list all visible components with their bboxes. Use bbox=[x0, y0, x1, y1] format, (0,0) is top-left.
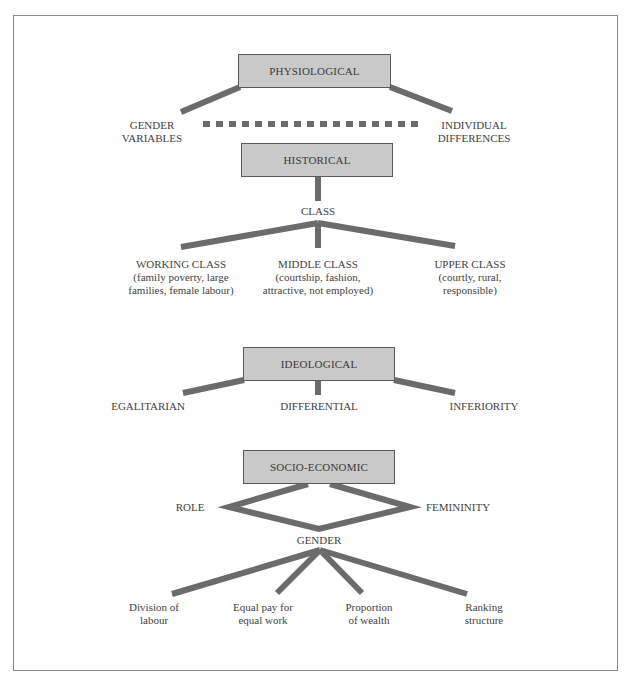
historical-box: HISTORICAL bbox=[241, 143, 393, 177]
connector-lines bbox=[0, 0, 625, 680]
connector-ideo-right bbox=[394, 380, 455, 393]
outcome-ranking-structure: Ranking structure bbox=[465, 601, 503, 627]
diamond-connector bbox=[229, 484, 410, 529]
physiological-box: PHYSIOLOGICAL bbox=[238, 54, 391, 88]
gender-variables-label: GENDER VARIABLES bbox=[122, 119, 182, 145]
ideological-title: IDEOLOGICAL bbox=[281, 358, 358, 370]
connector-physio-right bbox=[390, 87, 452, 111]
working-class-label: WORKING CLASS (family poverty, large fam… bbox=[128, 258, 233, 297]
outcome-division-of-labour: Division of labour bbox=[129, 601, 179, 627]
historical-title: HISTORICAL bbox=[283, 154, 350, 166]
egalitarian-label: EGALITARIAN bbox=[111, 400, 185, 413]
middle-class-label: MIDDLE CLASS (courtship, fashion, attrac… bbox=[263, 258, 373, 297]
inferiority-label: INFERIORITY bbox=[449, 400, 518, 413]
ideological-box: IDEOLOGICAL bbox=[243, 347, 395, 381]
role-label: ROLE bbox=[176, 501, 205, 514]
differential-label: DIFFERENTIAL bbox=[280, 400, 358, 413]
connector-physio-left bbox=[181, 87, 240, 112]
gender-label: GENDER bbox=[297, 534, 342, 547]
individual-differences-label: INDIVIDUAL DIFFERENCES bbox=[438, 119, 511, 145]
femininity-label: FEMININITY bbox=[426, 501, 490, 514]
outcome-equal-pay: Equal pay for equal work bbox=[233, 601, 293, 627]
socio-economic-box: SOCIO-ECONOMIC bbox=[243, 450, 395, 484]
physiological-title: PHYSIOLOGICAL bbox=[269, 65, 360, 77]
socio-economic-title: SOCIO-ECONOMIC bbox=[270, 461, 368, 473]
connector-class-working bbox=[181, 223, 318, 247]
upper-class-label: UPPER CLASS (courtly, rural, responsible… bbox=[434, 258, 505, 297]
class-label: CLASS bbox=[301, 205, 335, 218]
outcome-proportion-of-wealth: Proportion of wealth bbox=[345, 601, 392, 627]
connector-class-upper bbox=[318, 223, 455, 246]
connector-ideo-left bbox=[183, 380, 244, 393]
